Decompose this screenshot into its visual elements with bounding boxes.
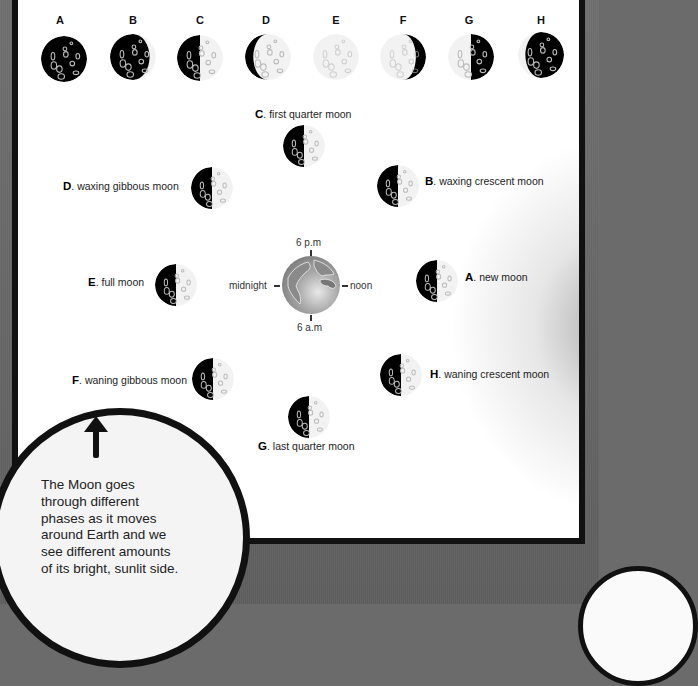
panel-shadow	[449, 136, 585, 516]
time-noon: noon	[350, 280, 372, 291]
tick-6pm	[310, 250, 312, 256]
earth-globe	[282, 256, 340, 314]
orbit-moon-b	[377, 165, 419, 207]
phase-label-b: B	[123, 14, 143, 26]
label-last-quarter: G. last quarter moon	[258, 440, 355, 452]
orbit-moon-c	[283, 125, 325, 167]
tick-midnight	[274, 285, 280, 287]
label-waning-gibbous: F. waning gibbous moon	[72, 374, 187, 386]
moon-a-new	[41, 36, 87, 82]
orbit-moon-d	[191, 167, 233, 209]
arrow-shaft	[93, 428, 99, 458]
label-first-quarter: C. first quarter moon	[255, 108, 351, 120]
moon-d-waxing-gibbous	[245, 34, 291, 80]
tick-noon	[342, 285, 348, 287]
corner-bubble	[578, 566, 698, 686]
label-full-moon: E. full moon	[88, 276, 144, 288]
label-new-moon: A. new moon	[465, 271, 528, 283]
orbit-moon-h	[380, 354, 422, 396]
orbit-moon-f	[192, 358, 234, 400]
phase-label-h: H	[531, 14, 551, 26]
label-waxing-gibbous: D. waxing gibbous moon	[63, 180, 179, 192]
moon-h-waning-crescent	[518, 32, 564, 78]
time-6am: 6 a.m	[297, 322, 322, 333]
time-midnight: midnight	[229, 280, 267, 291]
moon-g-last-quarter	[448, 34, 494, 80]
orbit-moon-e	[155, 264, 197, 306]
time-6pm: 6 p.m	[296, 237, 321, 248]
orbit-moon-a	[416, 260, 458, 302]
phase-label-c: C	[190, 14, 210, 26]
moon-c-first-quarter	[177, 35, 223, 81]
moon-b-waxing-crescent	[110, 34, 156, 80]
phase-label-g: G	[459, 14, 479, 26]
moon-e-full	[313, 34, 359, 80]
phase-label-e: E	[326, 14, 346, 26]
label-waning-crescent: H. waning crescent moon	[430, 368, 549, 380]
phase-label-d: D	[256, 14, 276, 26]
moon-f-waning-gibbous	[380, 34, 426, 80]
label-waxing-crescent: B. waxing crescent moon	[425, 175, 544, 187]
callout-text: The Moon goes through different phases a…	[41, 477, 181, 578]
phase-label-f: F	[393, 14, 413, 26]
orbit-moon-g	[288, 396, 330, 438]
tick-6am	[310, 315, 312, 321]
phase-label-a: A	[50, 14, 70, 26]
